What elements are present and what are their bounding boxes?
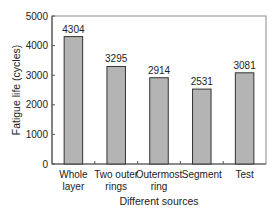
y-tick-label: 3000 [26,70,49,81]
x-tick-label: ring [151,181,168,192]
bar [235,73,254,164]
y-axis-ticks: 010002000300040005000 [26,11,55,170]
x-tick-label: Two outer [94,169,139,180]
x-tick-label: rings [105,181,127,192]
y-tick-label: 5000 [26,11,49,22]
x-tick-label: Test [235,169,254,180]
y-tick-label: 0 [42,159,48,170]
x-tick-label: Outermost [136,169,183,180]
bar [107,66,126,164]
bar-chart: 010002000300040005000 430432952914253130… [0,0,278,211]
x-axis-label: Different sources [119,195,198,207]
x-tick-label: Whole [59,169,88,180]
y-tick-label: 4000 [26,40,49,51]
bar [64,37,83,164]
y-tick-label: 2000 [26,99,49,110]
x-tick-label: layer [63,181,85,192]
y-axis-label: Fatigue life (cycles) [10,45,22,135]
x-axis-tick-labels: WholelayerTwo outerringsOutermostringSeg… [59,169,254,192]
bar-value-label: 4304 [62,24,85,35]
bar-value-label: 2531 [191,76,214,87]
y-tick-label: 1000 [26,129,49,140]
bar-value-label: 3081 [233,60,256,71]
x-tick-label: Segment [182,169,222,180]
bar-value-label: 2914 [148,65,171,76]
bars: 43043295291425313081 [62,24,256,164]
bar [193,89,212,164]
bar [150,78,169,164]
bar-value-label: 3295 [105,53,128,64]
